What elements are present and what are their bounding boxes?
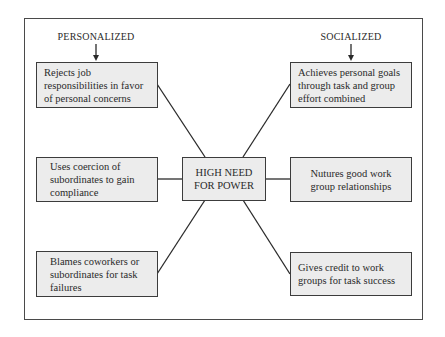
personalized-box-2: Uses coercion of subordinates to gain co… xyxy=(36,157,158,202)
center-label: HIGH NEED FOR POWER xyxy=(194,166,254,192)
personalized-box-3: Blames coworkers or subordinates for tas… xyxy=(36,251,158,297)
socialized-box-3: Gives credit to work groups for task suc… xyxy=(290,252,412,296)
box-text: Achieves personal goals through task and… xyxy=(298,66,400,105)
socialized-header: SOCIALIZED xyxy=(301,31,401,42)
box-text: Rejects job responsibilities in favor of… xyxy=(44,66,143,105)
socialized-box-2: Nutures good work group relationships xyxy=(290,157,412,202)
arrow-down-icon xyxy=(93,44,99,61)
box-text: Nutures good work group relationships xyxy=(310,167,391,193)
box-text: Blames coworkers or subordinates for tas… xyxy=(50,255,139,294)
center-box: HIGH NEED FOR POWER xyxy=(182,157,266,201)
socialized-box-1: Achieves personal goals through task and… xyxy=(290,62,412,108)
arrow-down-icon xyxy=(348,44,354,61)
box-text: Uses coercion of subordinates to gain co… xyxy=(50,160,135,199)
box-text: Gives credit to work groups for task suc… xyxy=(298,261,395,287)
personalized-box-1: Rejects job responsibilities in favor of… xyxy=(36,62,158,108)
personalized-header: PERSONALIZED xyxy=(46,31,146,42)
